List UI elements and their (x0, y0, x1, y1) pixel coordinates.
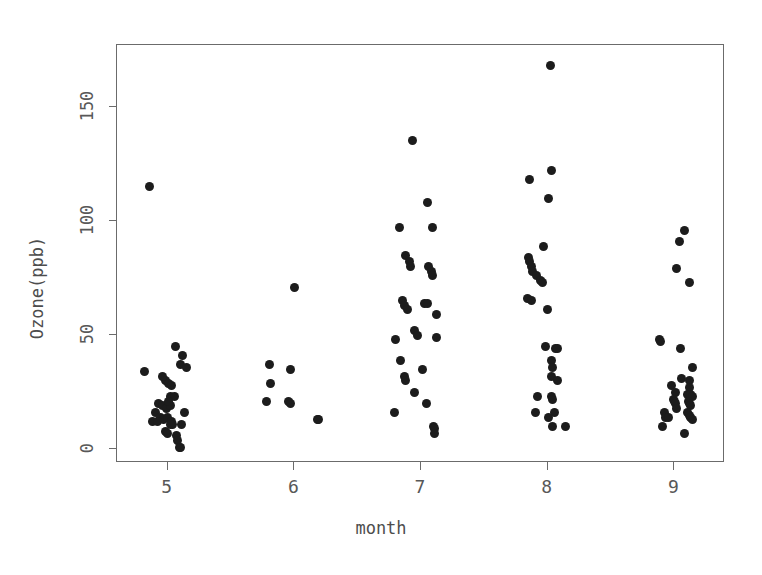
data-point (166, 420, 175, 429)
data-point (548, 363, 557, 372)
data-point (672, 264, 681, 273)
data-point (548, 395, 557, 404)
data-point (313, 415, 322, 424)
y-axis-title: Ozone(ppb) (22, 188, 52, 388)
data-point (688, 415, 697, 424)
data-point (541, 342, 550, 351)
chart-figure: Ozone(ppb) 050100150 56789 month (0, 0, 762, 575)
data-point (182, 363, 191, 372)
y-axis-tick-label: 50 (70, 304, 104, 364)
x-axis-tick-label: 9 (653, 476, 693, 497)
data-point (547, 166, 556, 175)
data-point (525, 175, 534, 184)
data-point (675, 237, 684, 246)
data-point (153, 417, 162, 426)
data-point (531, 408, 540, 417)
y-axis-tick (109, 448, 116, 449)
data-point (688, 363, 697, 372)
data-point (286, 365, 295, 374)
y-axis-tick-label: 0 (70, 418, 104, 478)
data-point (533, 392, 542, 401)
plot-frame (116, 44, 724, 462)
data-point (177, 420, 186, 429)
y-axis-tick-label-text: 150 (77, 90, 97, 121)
data-point (680, 429, 689, 438)
x-axis-title: month (0, 518, 762, 538)
x-axis-tick (420, 462, 421, 470)
data-point (423, 198, 432, 207)
data-point (178, 351, 187, 360)
y-axis-tick (109, 106, 116, 107)
data-point (548, 422, 557, 431)
y-axis-tick-label-text: 0 (77, 443, 97, 453)
data-point (656, 337, 665, 346)
x-axis-tick (293, 462, 294, 470)
data-point (432, 333, 441, 342)
data-point (430, 429, 439, 438)
y-axis-tick-label-text: 50 (77, 324, 97, 344)
x-axis-title-text: month (355, 518, 406, 538)
data-point (401, 376, 410, 385)
data-point (180, 408, 189, 417)
data-point (676, 344, 685, 353)
data-point (163, 429, 172, 438)
data-point (538, 278, 547, 287)
data-point (410, 388, 419, 397)
data-point (158, 372, 167, 381)
data-point (546, 61, 555, 70)
x-axis-tick (673, 462, 674, 470)
data-point (423, 299, 432, 308)
y-axis-title-text: Ozone(ppb) (27, 236, 47, 338)
data-point (428, 271, 437, 280)
y-axis-tick (109, 334, 116, 335)
x-axis-tick-label: 6 (273, 476, 313, 497)
data-point (406, 262, 415, 271)
x-axis-tick (167, 462, 168, 470)
data-point (553, 344, 562, 353)
data-point (403, 305, 412, 314)
data-point (140, 367, 149, 376)
x-axis-tick-label: 5 (147, 476, 187, 497)
data-point (286, 399, 295, 408)
data-point (527, 296, 536, 305)
x-axis-tick (547, 462, 548, 470)
data-point (543, 305, 552, 314)
data-point (395, 223, 404, 232)
data-point (171, 342, 180, 351)
y-axis-tick-label-text: 100 (77, 205, 97, 236)
y-axis-tick-label: 150 (70, 76, 104, 136)
data-point (672, 404, 681, 413)
data-point (544, 194, 553, 203)
data-point (290, 283, 299, 292)
data-point (539, 242, 548, 251)
data-point (418, 365, 427, 374)
data-point (167, 381, 176, 390)
data-point (391, 335, 400, 344)
data-point (553, 376, 562, 385)
data-point (664, 413, 673, 422)
data-point (428, 223, 437, 232)
x-axis-tick-label: 7 (400, 476, 440, 497)
data-point (265, 360, 274, 369)
x-axis-tick-label: 8 (527, 476, 567, 497)
data-point (390, 408, 399, 417)
data-point (658, 422, 667, 431)
data-point (685, 278, 694, 287)
data-point (145, 182, 154, 191)
plot-area (117, 45, 723, 461)
data-point (561, 422, 570, 431)
data-point (680, 226, 689, 235)
data-point (413, 331, 422, 340)
data-point (432, 310, 441, 319)
y-axis-tick-label: 100 (70, 190, 104, 250)
data-point (422, 399, 431, 408)
data-point (544, 413, 553, 422)
data-point (262, 397, 271, 406)
data-point (396, 356, 405, 365)
y-axis-tick (109, 220, 116, 221)
data-point (408, 136, 417, 145)
data-point (266, 379, 275, 388)
data-point (176, 443, 185, 452)
